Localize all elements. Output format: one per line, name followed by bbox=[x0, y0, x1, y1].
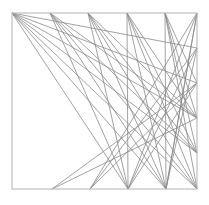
figure-root bbox=[0, 0, 209, 205]
line-art-canvas bbox=[0, 0, 209, 205]
